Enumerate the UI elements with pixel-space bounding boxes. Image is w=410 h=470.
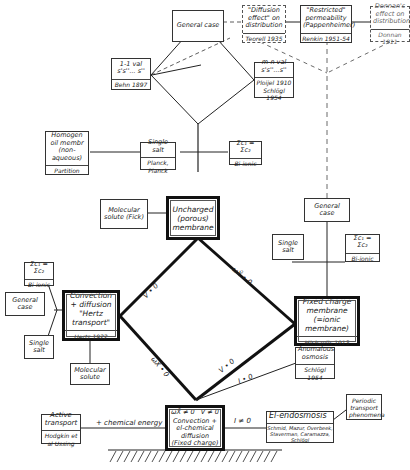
membrane-transport-diagram: General case "Diffusion effect" on distr… bbox=[0, 0, 410, 470]
node-biionic-top: Σc₁ = Σc₂ Bi-ionic bbox=[229, 141, 262, 165]
node-convection-el-chemical-diffusion: ωX̄ ≠ 0 V ≠ 0 Convection + el-chemical d… bbox=[165, 405, 225, 451]
edge-label-chemical-energy: + chemical energy bbox=[96, 419, 162, 427]
node-biionic-right: Σc₁ = Σc₂ Bi-ionic bbox=[345, 234, 380, 262]
header-v-ne-0: V ≠ 0 bbox=[201, 408, 219, 417]
node-homogen-oil-membrane: Homogen oil membr (non-aqueous) Partitio… bbox=[45, 131, 89, 175]
node-m-n-val: m-n val s's''...s'' Ploijel 1910 Schlögl… bbox=[254, 62, 294, 98]
header-wx-ne-0: ωX̄ ≠ 0 bbox=[171, 408, 195, 417]
node-molecular-solute-fick: Molecular solute (Fick) bbox=[100, 199, 148, 229]
node-fixed-charge-membrane: Fixed charge membrane (=ionic membrane) … bbox=[294, 296, 360, 346]
node-general-case-right: General case bbox=[304, 198, 350, 222]
node-anomalous-osmosis: Anomalous osmosis Schlögl 1954 bbox=[295, 347, 335, 379]
node-periodic-transport: Periodic transport phenomena bbox=[346, 394, 382, 420]
node-one-one-val: 1-1 val s's''... s'' Behn 1897 bbox=[111, 58, 151, 90]
node-single-salt-right: Single salt bbox=[272, 234, 304, 260]
node-el-endosmosis: El-endosmosis Schmid, Mazur, Overbeek, S… bbox=[266, 411, 334, 443]
node-molecular-solute: Molecular solute bbox=[70, 363, 110, 385]
node-active-transport: Active transport Hodgkin et al Ussing bbox=[41, 414, 81, 444]
node-convection-diffusion: Convection + diffusion "Hertz transport"… bbox=[62, 290, 120, 341]
node-general-case-top: General case bbox=[172, 10, 224, 42]
node-uncharged-membrane: Uncharged (porous) membrane bbox=[166, 196, 220, 240]
node-single-salt-top: Single salt Planck, Planck bbox=[140, 142, 176, 170]
node-donnan-effect: Donnan's effect on distribution Donnan 1… bbox=[370, 6, 410, 42]
node-biionic-left: Σc₁ = Σc₂ Bi-ionic bbox=[24, 262, 54, 286]
node-diffusion-effect: "Diffusion effect" on distribution Teore… bbox=[242, 5, 286, 43]
node-general-case-left: General case bbox=[5, 292, 45, 316]
node-restricted-permeability: "Restricted" permeability (Pappenheimer)… bbox=[300, 5, 352, 43]
node-single-salt-left: Single salt bbox=[24, 335, 54, 359]
edge-label-i-ne-0: I ≠ 0 bbox=[234, 417, 251, 425]
